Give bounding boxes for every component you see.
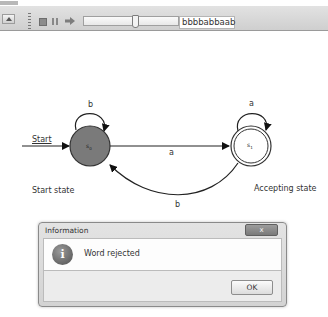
dialog-footer: OK (43, 271, 282, 302)
dialog-message: Word rejected (84, 249, 140, 258)
loop-s1-symbol: a (249, 99, 254, 108)
ok-button[interactable]: OK (231, 280, 273, 295)
dialog-title: Information (45, 226, 88, 235)
start-label: Start (32, 135, 52, 144)
close-icon: x (259, 226, 263, 234)
start-state-caption: Start state (32, 186, 74, 195)
state-s0-label: s0 (86, 142, 92, 151)
accepting-state-caption: Accepting state (254, 184, 316, 193)
edge-s1-s0 (110, 163, 238, 195)
loop-s0-symbol: b (88, 100, 93, 109)
edge-s0-s1-symbol: a (169, 148, 174, 157)
information-dialog: Information x i Word rejected OK (38, 222, 287, 307)
edge-s1-s0-symbol: b (175, 200, 180, 209)
close-button[interactable]: x (245, 224, 278, 236)
dialog-body: i Word rejected (43, 238, 282, 271)
state-s1-label: s1 (247, 141, 253, 150)
info-icon: i (52, 244, 73, 265)
